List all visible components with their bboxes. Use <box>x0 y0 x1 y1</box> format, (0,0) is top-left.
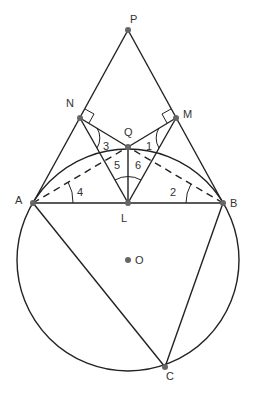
angle-label-4: 4 <box>77 186 83 198</box>
label-N: N <box>66 97 74 109</box>
geometry-diagram: P N M Q A B L O C 3 1 5 6 4 2 <box>0 0 254 399</box>
diagram-canvas: P N M Q A B L O C 3 1 5 6 4 2 <box>0 0 254 399</box>
angle-label-1: 1 <box>146 140 152 152</box>
segment-NL <box>80 118 128 203</box>
right-angle-mark-M <box>162 109 171 123</box>
angle-label-3: 3 <box>103 140 109 152</box>
point-O <box>125 257 131 263</box>
label-C: C <box>166 370 174 382</box>
angle-arc-2 <box>186 184 191 203</box>
label-A: A <box>15 194 23 206</box>
right-angle-mark-N <box>85 109 94 123</box>
point-P <box>125 27 131 33</box>
label-B: B <box>230 197 237 209</box>
label-Q: Q <box>124 126 133 138</box>
angle-arc-4 <box>68 182 73 203</box>
angle-arc-3 <box>97 128 100 148</box>
point-M <box>173 115 179 121</box>
point-Q <box>125 144 131 150</box>
point-N <box>77 115 83 121</box>
label-M: M <box>183 108 192 120</box>
label-O: O <box>135 254 144 266</box>
angle-label-6: 6 <box>135 159 141 171</box>
point-A <box>30 200 36 206</box>
angle-arc-1 <box>156 128 159 148</box>
segment-BC <box>165 203 223 367</box>
angle-label-2: 2 <box>170 186 176 198</box>
angle-label-5: 5 <box>114 159 120 171</box>
point-B <box>220 200 226 206</box>
label-P: P <box>130 13 137 25</box>
point-L <box>125 200 131 206</box>
label-L: L <box>121 212 127 224</box>
